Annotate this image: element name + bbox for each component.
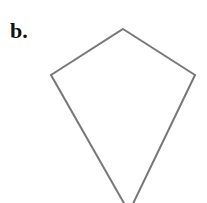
- kite-diagram: [0, 0, 207, 203]
- kite-shape: [51, 29, 195, 203]
